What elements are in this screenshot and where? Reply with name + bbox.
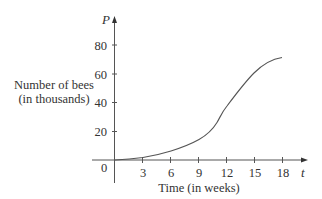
- y-axis-symbol: P: [101, 12, 110, 27]
- x-axis-symbol: t: [301, 165, 305, 180]
- population-curve: [115, 58, 282, 161]
- y-axis-arrow-icon: [112, 16, 117, 23]
- x-tick-label: 3: [140, 166, 146, 180]
- x-tick-labels: 3 6 9 12 15 18: [140, 166, 289, 180]
- x-tick-label: 9: [196, 166, 202, 180]
- x-axis-title: Time (in weeks): [158, 181, 239, 195]
- y-tick-label: 80: [95, 39, 108, 53]
- x-tick-label: 18: [277, 166, 290, 180]
- bee-population-chart: 3 6 9 12 15 18 20 40 60 80 0 P t Time (i…: [0, 0, 322, 199]
- x-tick-label: 6: [168, 166, 174, 180]
- x-tick-label: 12: [221, 166, 234, 180]
- origin-label: 0: [101, 161, 107, 175]
- y-tick-labels: 20 40 60 80: [95, 39, 108, 140]
- y-tick-label: 20: [95, 125, 108, 139]
- y-tick-label: 40: [95, 96, 108, 110]
- x-axis-arrow-icon: [301, 158, 308, 163]
- x-tick-label: 15: [249, 166, 262, 180]
- y-tick-label: 60: [95, 68, 108, 82]
